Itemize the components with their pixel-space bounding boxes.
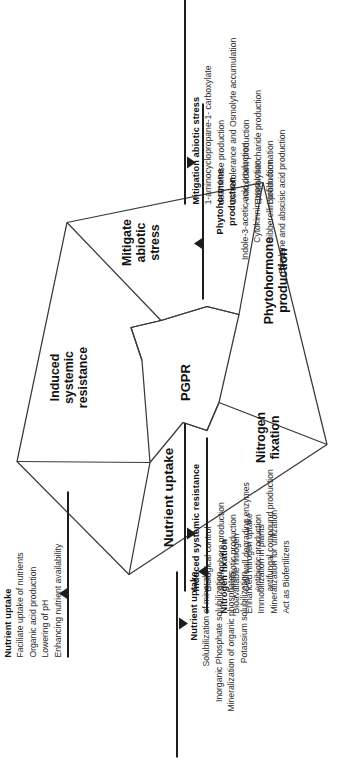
callout-item: Immobilization in plants (255, 437, 267, 613)
callout-leader-rule (202, 103, 204, 299)
callout-item: Bioavailable nitrogen (230, 437, 242, 613)
callout-item: Cytokinnin production (251, 103, 263, 299)
callout-nitrogen-fixation: Nitrogen fixation Bioavailable nitrogen … (218, 437, 292, 613)
callout-leader-rule (184, 0, 186, 204)
figure-canvas: Nutrient uptake Induced systemic resista… (0, 0, 344, 763)
callout-pointer-icon (194, 237, 203, 249)
callout-item: 1-aminocyclopropane-1- carboxylate (202, 0, 214, 204)
callout-item: Lowering of pH (39, 491, 51, 657)
callout-leader-rule (184, 423, 186, 591)
callout-heading: Nutrient uptake (2, 491, 14, 657)
spoke-upper-right (67, 222, 161, 360)
callout-nutrient-uptake-top: Nutrient uptake Faciliate uptake of nutr… (2, 491, 69, 657)
callout-nitrogen-fixation-rule (206, 437, 208, 613)
callout-heading: Phytohormone production (214, 103, 239, 299)
callout-heading: Mitigation abiotic stress (190, 0, 202, 204)
callout-leader-rule (206, 437, 208, 613)
callout-pointer-icon (59, 587, 68, 599)
callout-pointer-icon (187, 527, 196, 539)
callout-item: Indole-3-acetic acid production (239, 103, 251, 299)
callout-item: Enhancing nutrient availability (52, 491, 64, 657)
callout-item: Gibberellin production (264, 103, 276, 299)
callout-heading: Nitrogen fixation (218, 437, 230, 613)
callout-item: Enhanced nitrogen uptake (243, 437, 255, 613)
callout-phytohormone-production-rule (202, 103, 204, 299)
callout-pointer-icon (198, 565, 207, 577)
callout-pointer-icon (187, 156, 196, 168)
callout-item-list: Faciliate uptake of nutrients Organic ac… (14, 491, 64, 657)
callout-item: Organic acid production (27, 491, 39, 657)
callout-leader-rule (176, 571, 178, 757)
callout-nutrient-uptake-bottom-rule (176, 571, 178, 757)
callout-item: Mineralization for utilization (268, 437, 280, 613)
callout-leader-rule (67, 491, 69, 657)
callout-heading: Nutrient uptake (188, 571, 200, 757)
callout-item-list: Bioavailable nitrogen Enhanced nitrogen … (230, 437, 292, 613)
callout-phytohormone-production: Phytohormone production Indole-3-acetic … (214, 103, 288, 299)
callout-item: Act as Biofertilizers (280, 437, 292, 613)
callout-item: Ethylene and abscisic acid production (276, 103, 288, 299)
callout-item-list: Indole-3-acetic acid production Cytokinn… (239, 103, 289, 299)
callout-item: Faciliate uptake of nutrients (14, 491, 26, 657)
callout-pointer-icon (179, 617, 188, 629)
